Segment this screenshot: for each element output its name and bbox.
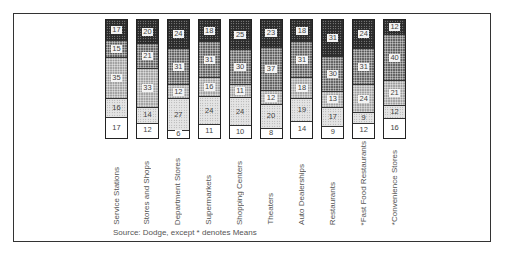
segment-value: 16 <box>389 124 400 132</box>
bar-0: 1715351617 <box>105 19 128 139</box>
bar-segment: 24 <box>230 97 251 125</box>
segment-value: 14 <box>142 111 153 119</box>
category-label: Stores and Shops <box>140 150 154 225</box>
segment-value: 16 <box>204 83 215 91</box>
bar-6: 1831181914 <box>290 19 313 139</box>
segment-value: 24 <box>204 107 215 115</box>
segment-value: 20 <box>142 28 153 36</box>
segment-value: 17 <box>111 26 122 34</box>
bar-segment: 37 <box>261 47 282 90</box>
segment-value: 37 <box>265 65 276 73</box>
bar-3: 1831162411 <box>198 19 221 139</box>
bar-segment: 30 <box>230 49 251 84</box>
bar-segment: 24 <box>353 84 374 112</box>
segment-value: 10 <box>234 128 245 136</box>
category-label: Restaurants <box>325 150 339 225</box>
segment-value: 25 <box>234 31 245 39</box>
bar-segment: 15 <box>106 40 127 58</box>
bar-segment: 20 <box>261 104 282 127</box>
bar-segment: 21 <box>384 80 405 104</box>
segment-value: 11 <box>235 87 246 95</box>
bar-1: 2021331412 <box>136 19 159 139</box>
category-label: Theaters <box>264 150 278 225</box>
bar-segment: 12 <box>384 20 405 34</box>
segment-value: 19 <box>296 106 307 114</box>
bar-segment: 14 <box>137 107 158 123</box>
bar-2: 243112276 <box>167 19 190 139</box>
segment-value: 24 <box>234 108 245 116</box>
segment-value: 24 <box>358 30 369 38</box>
segment-value: 17 <box>111 124 122 132</box>
bar-segment: 40 <box>384 34 405 80</box>
segment-value: 12 <box>173 88 184 96</box>
segment-value: 35 <box>111 74 122 82</box>
bar-segment: 17 <box>322 107 343 127</box>
category-label: *Fast Food Restaurants <box>356 150 370 225</box>
segment-value: 20 <box>265 112 276 120</box>
bar-9: 1240211216 <box>383 19 406 139</box>
segment-value: 16 <box>111 104 122 112</box>
bar-segment: 24 <box>168 20 189 48</box>
category-label: Department Stores <box>171 150 185 225</box>
bar-segment: 12 <box>384 105 405 119</box>
segment-value: 17 <box>327 113 338 121</box>
bar-segment: 12 <box>168 84 189 98</box>
category-label: Auto Dealerships <box>294 150 308 225</box>
segment-value: 24 <box>358 95 369 103</box>
bar-segment: 14 <box>291 121 312 137</box>
segment-value: 31 <box>358 63 369 71</box>
segment-value: 9 <box>360 114 367 122</box>
segment-value: 31 <box>173 63 184 71</box>
segment-value: 12 <box>389 23 400 31</box>
bar-segment: 6 <box>168 130 189 137</box>
bar-segment: 9 <box>353 112 374 123</box>
category-label: *Convenience Stores <box>387 150 401 225</box>
bar-segment: 18 <box>199 20 220 41</box>
segment-value: 31 <box>296 56 307 64</box>
segment-value: 13 <box>327 95 338 103</box>
segment-value: 27 <box>173 111 184 119</box>
segment-value: 21 <box>142 52 153 60</box>
bar-segment: 24 <box>353 20 374 48</box>
bar-segment: 10 <box>230 125 251 137</box>
segment-value: 31 <box>327 34 338 42</box>
category-label: Supermarkets <box>202 150 216 225</box>
bar-segment: 18 <box>291 20 312 41</box>
segment-value: 18 <box>296 27 307 35</box>
bar-segment: 12 <box>261 90 282 104</box>
bar-segment: 31 <box>168 48 189 84</box>
segment-value: 12 <box>142 126 153 134</box>
bar-segment: 19 <box>291 98 312 120</box>
bar-segment: 27 <box>168 98 189 130</box>
segment-value: 15 <box>111 45 122 53</box>
bar-segment: 12 <box>353 123 374 137</box>
bar-7: 313013179 <box>321 19 344 139</box>
bar-segment: 9 <box>322 126 343 137</box>
bar-segment: 21 <box>137 43 158 68</box>
segment-value: 6 <box>175 130 182 138</box>
category-label: Service Stations <box>109 150 123 225</box>
bar-segment: 20 <box>137 20 158 43</box>
segment-value: 8 <box>267 129 274 137</box>
segment-value: 18 <box>204 27 215 35</box>
segment-value: 18 <box>296 84 307 92</box>
segment-value: 12 <box>265 94 276 102</box>
bar-segment: 13 <box>322 91 343 106</box>
bar-segment: 17 <box>106 20 127 40</box>
bar-segment: 23 <box>261 20 282 47</box>
segment-value: 24 <box>173 30 184 38</box>
bar-segment: 16 <box>106 98 127 117</box>
bar-segment: 33 <box>137 68 158 107</box>
bar-segment: 31 <box>291 41 312 77</box>
bar-segment: 8 <box>261 128 282 137</box>
segment-value: 12 <box>358 126 369 134</box>
bar-segment: 16 <box>384 118 405 137</box>
bar-segment: 31 <box>322 20 343 56</box>
segment-value: 30 <box>327 70 338 78</box>
segment-value: 14 <box>296 125 307 133</box>
segment-value: 12 <box>389 108 400 116</box>
segment-value: 9 <box>329 128 336 136</box>
source-note: Source: Dodge, except * denotes Means <box>113 228 257 237</box>
bar-segment: 31 <box>353 48 374 84</box>
bar-segment: 16 <box>199 77 220 96</box>
